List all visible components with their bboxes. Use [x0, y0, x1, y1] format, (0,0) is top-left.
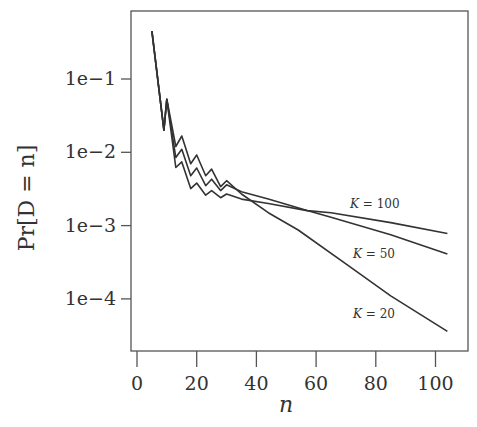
x-axis-label: n [279, 392, 293, 417]
series-labels: K = 100K = 50K = 20 [349, 197, 400, 321]
y-tick-label: 1e−1 [65, 67, 116, 89]
x-tick-label: 40 [244, 372, 268, 394]
plot-frame [131, 11, 468, 351]
x-tick-label: 60 [304, 372, 328, 394]
series-line-k100 [152, 31, 448, 233]
x-tick-label: 20 [185, 372, 209, 394]
series-label: K = 50 [352, 247, 395, 261]
y-tick-label: 1e−3 [65, 214, 116, 236]
series-label: K = 20 [352, 307, 395, 321]
x-tick-label: 100 [417, 372, 453, 394]
x-tick-label: 80 [364, 372, 388, 394]
y-axis: 1e−11e−21e−31e−4 [65, 67, 131, 309]
y-axis-label: Pr[D = n] [14, 145, 39, 252]
series-label: K = 100 [349, 197, 400, 211]
series-line-k50 [152, 31, 448, 254]
chart-canvas: 1e−11e−21e−31e−4 020406080100 K = 100K =… [0, 0, 477, 427]
series-line-k20 [152, 31, 448, 331]
y-tick-label: 1e−2 [65, 140, 116, 162]
series-lines [152, 31, 448, 331]
x-tick-label: 0 [131, 372, 143, 394]
x-axis: 020406080100 [131, 351, 454, 394]
y-tick-label: 1e−4 [65, 287, 116, 309]
